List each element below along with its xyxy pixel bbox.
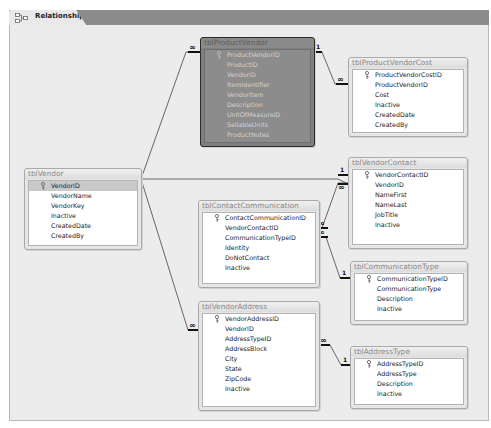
- field-row[interactable]: AddressType: [355, 369, 463, 379]
- field-row[interactable]: CreatedDate: [29, 221, 137, 231]
- field-row[interactable]: Cost: [353, 90, 463, 100]
- field-row[interactable]: Inactive: [205, 140, 310, 143]
- field-list[interactable]: ProductVendorCostID ProductVendorID Cost…: [352, 69, 464, 133]
- field-row[interactable]: Inactive: [353, 220, 463, 230]
- key-icon: [216, 51, 222, 59]
- field-row[interactable]: UnitOfMeasureID: [205, 110, 310, 120]
- field-list[interactable]: VendorAddressID VendorID AddressTypeID A…: [202, 313, 316, 407]
- field-row[interactable]: ZipCode: [203, 374, 315, 384]
- key-icon: [40, 182, 46, 190]
- field-row[interactable]: VendorKey: [29, 201, 137, 211]
- field-row[interactable]: AddressBlock: [203, 344, 315, 354]
- field-list[interactable]: VendorContactID VendorID NameFirst NameL…: [352, 169, 464, 245]
- field-row[interactable]: Inactive: [355, 304, 463, 314]
- key-icon: [364, 171, 370, 179]
- table-tblAddressType[interactable]: tblAddressType AddressTypeID AddressType…: [350, 346, 468, 409]
- table-title[interactable]: tblProductVendor: [201, 38, 314, 48]
- field-row[interactable]: CreatedBy: [29, 231, 137, 241]
- field-row[interactable]: VendorAddressID: [203, 314, 315, 324]
- table-title[interactable]: tblProductVendorCost: [349, 58, 467, 68]
- field-row[interactable]: VendorName: [29, 191, 137, 201]
- field-row[interactable]: DoNotContact: [203, 253, 315, 263]
- key-icon: [364, 71, 370, 79]
- field-row[interactable]: VendorContactID: [203, 223, 315, 233]
- field-row[interactable]: CreatedDate: [353, 110, 463, 120]
- field-row[interactable]: ProductID: [205, 60, 310, 70]
- table-tblProductVendorCost[interactable]: tblProductVendorCost ProductVendorCostID…: [348, 57, 468, 137]
- field-row-selected[interactable]: VendorID: [29, 181, 137, 191]
- field-row[interactable]: Description: [355, 379, 463, 389]
- field-row[interactable]: Identity: [203, 243, 315, 253]
- field-row[interactable]: VendorID: [353, 180, 463, 190]
- field-row[interactable]: CreatedBy: [353, 120, 463, 130]
- key-icon: [214, 214, 220, 222]
- field-row[interactable]: VendorContactID: [353, 170, 463, 180]
- field-row[interactable]: CommunicationTypeID: [355, 274, 463, 284]
- table-tblVendorAddress[interactable]: tblVendorAddress VendorAddressID VendorI…: [198, 301, 320, 411]
- table-title[interactable]: tblContactCommunication: [199, 201, 319, 211]
- field-row[interactable]: AddressTypeID: [203, 334, 315, 344]
- field-list[interactable]: AddressTypeID AddressType Description In…: [354, 358, 464, 405]
- field-row[interactable]: VendorItem: [205, 90, 310, 100]
- field-row[interactable]: SellableUnits: [205, 120, 310, 130]
- key-icon: [214, 315, 220, 323]
- field-row[interactable]: JobTitle: [353, 210, 463, 220]
- table-tblContactCommunication[interactable]: tblContactCommunication ContactCommunica…: [198, 200, 320, 288]
- field-row[interactable]: AddressTypeID: [355, 359, 463, 369]
- key-icon: [366, 360, 372, 368]
- field-row[interactable]: ContactCommunicationID: [203, 213, 315, 223]
- field-row[interactable]: ProductNotes: [205, 130, 310, 140]
- table-title[interactable]: tblAddressType: [351, 347, 467, 357]
- field-row[interactable]: Inactive: [353, 100, 463, 110]
- key-icon: [366, 275, 372, 283]
- field-row[interactable]: CommunicationTypeID: [203, 233, 315, 243]
- table-tblCommunicationType[interactable]: tblCommunicationType CommunicationTypeID…: [350, 261, 468, 325]
- field-row[interactable]: Description: [205, 100, 310, 110]
- table-title[interactable]: tblVendorAddress: [199, 302, 319, 312]
- field-row[interactable]: Inactive: [29, 211, 137, 221]
- field-row[interactable]: ProductVendorID: [353, 80, 463, 90]
- table-tblProductVendor[interactable]: tblProductVendor ProductVendorID Product…: [200, 37, 315, 147]
- field-row[interactable]: ProductVendorID: [205, 50, 310, 60]
- field-row[interactable]: Inactive: [203, 263, 315, 273]
- table-tblVendor[interactable]: tblVendor VendorID VendorName VendorKey …: [24, 168, 142, 250]
- field-row[interactable]: VendorID: [203, 324, 315, 334]
- table-title[interactable]: tblVendorContact: [349, 158, 467, 168]
- field-list[interactable]: VendorID VendorName VendorKey Inactive C…: [28, 180, 138, 246]
- relationships-icon: [15, 13, 28, 23]
- field-row[interactable]: Inactive: [355, 389, 463, 399]
- field-list[interactable]: ProductVendorID ProductID VendorID ItemI…: [204, 49, 311, 143]
- field-row[interactable]: NameFirst: [353, 190, 463, 200]
- field-row[interactable]: NameLast: [353, 200, 463, 210]
- field-row[interactable]: City: [203, 354, 315, 364]
- field-list[interactable]: ContactCommunicationID VendorContactID C…: [202, 212, 316, 284]
- field-row[interactable]: ItemIdentifier: [205, 80, 310, 90]
- field-list[interactable]: CommunicationTypeID CommunicationType De…: [354, 273, 464, 321]
- field-row[interactable]: Inactive: [203, 384, 315, 394]
- tab-relationships[interactable]: Relationships: [9, 10, 87, 26]
- table-title[interactable]: tblCommunicationType: [351, 262, 467, 272]
- field-row[interactable]: CommunicationType: [355, 284, 463, 294]
- table-tblVendorContact[interactable]: tblVendorContact VendorContactID VendorI…: [348, 157, 468, 249]
- field-row[interactable]: State: [203, 364, 315, 374]
- field-row[interactable]: ProductVendorCostID: [353, 70, 463, 80]
- field-row[interactable]: Description: [355, 294, 463, 304]
- table-title[interactable]: tblVendor: [25, 169, 141, 179]
- field-row[interactable]: VendorID: [205, 70, 310, 80]
